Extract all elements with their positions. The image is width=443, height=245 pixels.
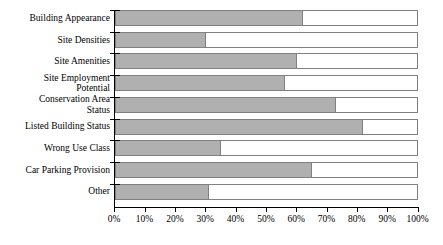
- bar-fill-segment: [115, 119, 364, 135]
- y-axis-tick: [110, 119, 120, 120]
- x-axis-tick: [175, 207, 176, 212]
- bar-row: [115, 10, 418, 26]
- horizontal-bar-chart: Building AppearanceSite DensitiesSite Am…: [0, 0, 443, 245]
- category-label: Car Parking Provision: [0, 165, 110, 175]
- x-axis-tick: [387, 207, 388, 212]
- y-axis-tick: [110, 32, 120, 33]
- bar-row: [115, 53, 418, 69]
- y-axis-tick: [110, 184, 120, 185]
- category-label: Other: [0, 186, 110, 196]
- category-label: Building Appearance: [0, 13, 110, 23]
- y-axis-tick: [110, 97, 120, 98]
- y-axis-tick: [110, 75, 120, 76]
- category-label: Site Densities: [0, 35, 110, 45]
- bar-fill-segment: [115, 10, 303, 26]
- bar-row: [115, 184, 418, 200]
- category-label: Conservation Area Status: [0, 94, 110, 115]
- x-axis-tick: [357, 207, 358, 212]
- bar-row: [115, 75, 418, 91]
- bar-row: [115, 32, 418, 48]
- x-axis-tick: [114, 207, 115, 212]
- bar-row: [115, 119, 418, 135]
- y-axis-tick: [110, 10, 120, 11]
- x-axis-tick: [236, 207, 237, 212]
- plot-area: [115, 10, 418, 206]
- bar-fill-segment: [115, 184, 209, 200]
- y-axis-tick: [110, 53, 120, 54]
- x-axis-tick: [296, 207, 297, 212]
- bar-fill-segment: [115, 140, 221, 156]
- bar-row: [115, 162, 418, 178]
- x-axis-tick: [205, 207, 206, 212]
- bar-row: [115, 97, 418, 113]
- bar-row: [115, 140, 418, 156]
- bar-fill-segment: [115, 32, 206, 48]
- y-axis-tick: [110, 162, 120, 163]
- x-axis-tick: [418, 207, 419, 212]
- bar-fill-segment: [115, 162, 312, 178]
- category-label: Site Employment Potential: [0, 73, 110, 94]
- y-axis-tick: [110, 140, 120, 141]
- x-axis-tick: [145, 207, 146, 212]
- bar-fill-segment: [115, 75, 285, 91]
- bar-fill-segment: [115, 53, 297, 69]
- x-axis-tick-label: 100%: [398, 214, 438, 225]
- category-label: Listed Building Status: [0, 121, 110, 131]
- x-axis-tick: [266, 207, 267, 212]
- x-axis-tick: [327, 207, 328, 212]
- category-label: Site Amenities: [0, 56, 110, 66]
- category-label: Wrong Use Class: [0, 143, 110, 153]
- category-axis-labels: Building AppearanceSite DensitiesSite Am…: [0, 10, 110, 206]
- bar-fill-segment: [115, 97, 336, 113]
- y-axis-line: [114, 10, 115, 207]
